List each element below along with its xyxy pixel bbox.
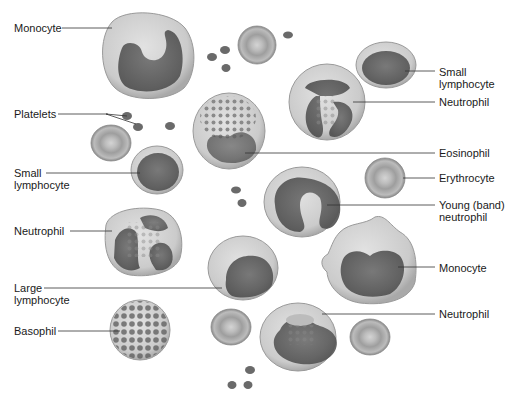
label-small-lymphocyte-2: Small lymphocyte: [14, 167, 70, 191]
label-large-lymphocyte: Large lymphocyte: [14, 282, 70, 306]
small-lymphocyte-cell-1: [356, 42, 416, 88]
young-band-neutrophil-cell: [264, 167, 340, 237]
monocyte-cell-1: [103, 13, 194, 99]
label-young-band-neutrophil: Young (band) neutrophil: [439, 199, 505, 223]
label-erythrocyte: Erythrocyte: [439, 172, 495, 184]
label-monocyte-2: Monocyte: [439, 262, 487, 274]
erythrocyte-cell-left: [91, 125, 131, 161]
neutrophil-cell-2: [105, 208, 182, 276]
platelets-cluster-left: [122, 112, 175, 131]
large-lymphocyte-cell: [208, 236, 278, 300]
label-eosinophil: Eosinophil: [439, 147, 490, 159]
label-neutrophil-3: Neutrophil: [439, 308, 489, 320]
label-basophil: Basophil: [14, 325, 56, 337]
label-small-lymphocyte-1: Small lymphocyte: [439, 66, 495, 90]
platelets-cluster-center: [231, 187, 247, 208]
label-neutrophil-1: Neutrophil: [439, 96, 489, 108]
cells-illustration: [0, 0, 511, 398]
blood-cells-diagram: Monocyte Platelets Small lymphocyte Neut…: [0, 0, 511, 398]
monocyte-cell-2: [322, 216, 416, 303]
label-platelets: Platelets: [14, 108, 56, 120]
small-lymphocyte-cell-2: [131, 146, 183, 194]
erythrocyte-cell-right: [365, 158, 405, 198]
neutrophil-cell-3: [260, 303, 337, 371]
platelets-cluster-bottom: [228, 366, 256, 389]
label-monocyte-1: Monocyte: [14, 22, 62, 34]
eosinophil-cell: [193, 93, 265, 169]
erythrocyte-cell-bottom-right: [350, 319, 390, 355]
erythrocyte-cell-bottom-left: [211, 309, 251, 345]
label-neutrophil-2: Neutrophil: [14, 225, 64, 237]
erythrocyte-cell-top: [238, 26, 276, 64]
basophil-cell: [110, 300, 170, 360]
